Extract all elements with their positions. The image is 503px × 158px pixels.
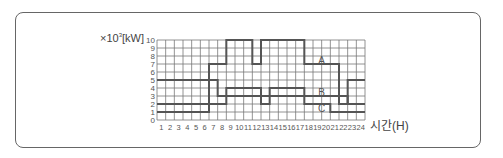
svg-text:6: 6 [203,123,207,132]
svg-text:21: 21 [330,123,338,132]
svg-text:14: 14 [270,123,278,132]
svg-text:1: 1 [159,123,163,132]
svg-text:B: B [318,87,325,98]
svg-text:9: 9 [151,44,156,53]
svg-text:2: 2 [168,123,172,132]
svg-text:7: 7 [151,60,156,69]
svg-text:9: 9 [229,123,233,132]
svg-text:4: 4 [151,84,156,93]
svg-text:10: 10 [235,123,243,132]
svg-text:15: 15 [278,123,286,132]
step-chart: 0123456789101234567891011121314151617181… [0,0,503,158]
svg-text:7: 7 [211,123,215,132]
svg-text:16: 16 [287,123,295,132]
svg-text:1: 1 [151,108,156,117]
svg-text:C: C [318,103,325,114]
svg-text:8: 8 [220,123,224,132]
svg-text:20: 20 [322,123,330,132]
svg-text:17: 17 [296,123,304,132]
svg-text:19: 19 [313,123,321,132]
svg-text:A: A [318,55,325,66]
svg-text:18: 18 [304,123,312,132]
svg-text:12: 12 [252,123,260,132]
svg-text:5: 5 [151,76,156,85]
svg-text:24: 24 [356,123,364,132]
svg-text:8: 8 [151,52,156,61]
svg-text:22: 22 [339,123,347,132]
svg-text:3: 3 [151,92,156,101]
svg-text:4: 4 [185,123,189,132]
svg-text:23: 23 [348,123,356,132]
svg-text:3: 3 [177,123,181,132]
svg-text:11: 11 [244,123,252,132]
svg-text:5: 5 [194,123,198,132]
svg-text:0: 0 [151,116,156,125]
svg-text:10: 10 [146,36,155,45]
svg-text:2: 2 [151,100,156,109]
svg-text:6: 6 [151,68,156,77]
svg-text:13: 13 [261,123,269,132]
